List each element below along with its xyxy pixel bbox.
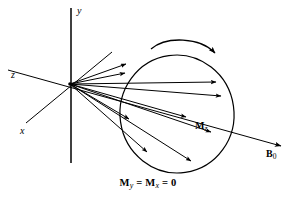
mz-vector-label: Mz [195, 121, 207, 131]
origin-point [68, 82, 72, 86]
magnetization-diagram: y z x Mz B0 My = Mx = 0 [0, 0, 296, 202]
z-axis-label: z [11, 70, 15, 80]
z-axis-line [8, 70, 281, 146]
mz-subscript: z [204, 124, 207, 133]
b0-field-label: B0 [266, 149, 276, 159]
magnetization-vector-6 [70, 84, 211, 132]
y-axis-label: y [77, 6, 81, 16]
diagram-canvas [0, 0, 296, 202]
magnetization-vector-9 [70, 84, 191, 161]
caption-mx-sub: x [155, 181, 159, 190]
magnetization-vector-8 [70, 84, 147, 152]
b0-subscript: 0 [273, 152, 277, 161]
equation-caption: My = Mx = 0 [0, 177, 296, 189]
caption-my-sub: y [130, 181, 134, 190]
caption-mx-base: M [145, 177, 155, 188]
b0-base: B [266, 148, 273, 159]
caption-zero: 0 [171, 177, 176, 188]
caption-my-base: M [120, 177, 130, 188]
x-axis-label: x [20, 126, 24, 136]
precession-arc-arrow [151, 40, 215, 53]
magnetization-vector-fan [70, 64, 221, 161]
magnetization-vector-3 [70, 82, 216, 84]
